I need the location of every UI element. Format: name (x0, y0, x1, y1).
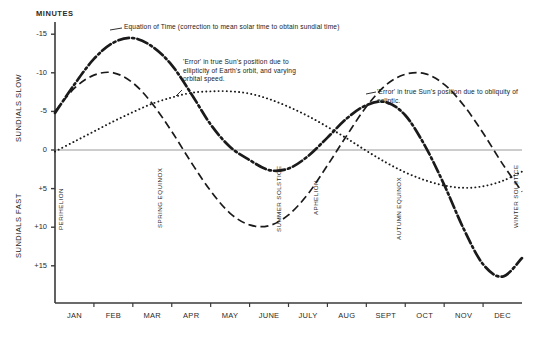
x-tick-label-aug: AUG (325, 311, 369, 320)
x-tick-label-apr: APR (169, 311, 213, 320)
plot-area (0, 0, 546, 340)
x-tick-label-nov: NOV (442, 311, 486, 320)
x-tick-label-sept: SEPT (364, 311, 408, 320)
x-tick-label-june: JUNE (247, 311, 291, 320)
event-label-spring-equinox: SPRING EQUINOX (156, 168, 163, 228)
y-tick-label: -5 (21, 106, 47, 115)
event-label-summer-solstice: SUMMER SOLSTICE (275, 165, 282, 232)
event-label-aphelion: APHELION (312, 180, 319, 215)
x-tick-label-feb: FEB (91, 311, 135, 320)
x-tick-label-mar: MAR (130, 311, 174, 320)
x-tick-label-dec: DEC (481, 311, 525, 320)
leader-eot (110, 28, 122, 30)
y-tick-label: +15 (21, 261, 47, 270)
y-tick-label: +5 (21, 184, 47, 193)
series-line-2 (55, 91, 522, 188)
event-label-perihelion: PERIHELION (57, 188, 64, 230)
x-tick-label-oct: OCT (403, 311, 447, 320)
y-tick-label: -15 (21, 29, 47, 38)
leader-obliq (366, 92, 376, 94)
y-tick-label: +10 (21, 222, 47, 231)
x-tick-label-july: JULY (286, 311, 330, 320)
x-tick-label-jan: JAN (52, 311, 96, 320)
y-tick-label: -10 (21, 68, 47, 77)
equation-of-time-chart: MINUTES SUNDIALS SLOW SUNDIALS FAST Equa… (0, 0, 546, 340)
series-line-0 (55, 38, 522, 277)
event-label-autumn-equinox: AUTUMN EQUINOX (395, 177, 402, 240)
y-tick-label: 0 (21, 145, 47, 154)
event-label-winter-solstice: WINTER SOLSTICE (512, 165, 519, 228)
x-tick-label-may: MAY (208, 311, 252, 320)
